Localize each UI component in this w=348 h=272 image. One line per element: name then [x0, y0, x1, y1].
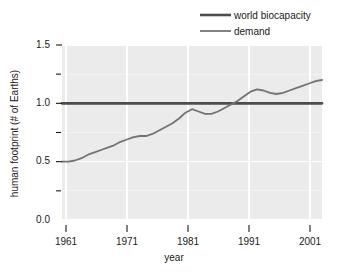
x-tick-label-1991: 1991 — [226, 236, 272, 247]
x-tick-label-1961: 1961 — [43, 236, 89, 247]
x-tick-label-2001: 2001 — [287, 236, 333, 247]
x-axis-title: year — [0, 252, 348, 263]
y-tick-label-0-0: 0.0 — [16, 214, 50, 225]
y-axis-ticks — [56, 45, 62, 191]
y-tick-label-1-5: 1.5 — [16, 39, 50, 50]
legend-item-demand: demand — [196, 24, 270, 39]
legend-label-demand: demand — [234, 26, 270, 37]
x-axis-ticks — [66, 225, 310, 232]
y-tick-label-0-5: 0.5 — [16, 155, 50, 166]
y-axis-title: human footprint (# of Earths) — [9, 34, 20, 234]
chart-figure: world biocapacity demand 1.5 1.0 0.5 0.0… — [0, 0, 348, 272]
chart-legend: world biocapacity demand — [196, 8, 346, 42]
x-tick-label-1971: 1971 — [104, 236, 150, 247]
legend-item-world-biocapacity: world biocapacity — [196, 8, 311, 23]
legend-label-world-biocapacity: world biocapacity — [234, 10, 311, 21]
y-tick-label-1-0: 1.0 — [16, 97, 50, 108]
x-tick-label-1981: 1981 — [165, 236, 211, 247]
